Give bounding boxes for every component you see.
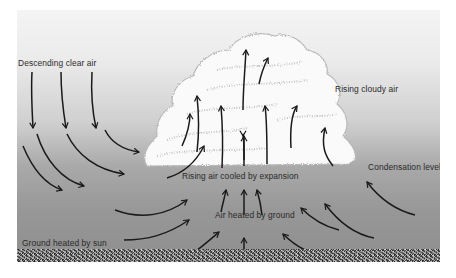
label-ground-heated-by-sun: Ground heated by sun — [22, 238, 107, 248]
label-condensation-level: Condensation level — [368, 162, 440, 172]
diagram-artwork — [17, 10, 440, 262]
descending-arrows — [32, 72, 96, 128]
label-rising-air-cooled: Rising air cooled by expansion — [182, 171, 299, 181]
label-descending-clear-air: Descending clear air — [18, 58, 96, 68]
label-air-heated-by-ground: Air heated by ground — [215, 210, 295, 220]
ground-strip — [17, 249, 440, 262]
diagram-panel: Descending clear air Rising cloudy air C… — [17, 10, 440, 262]
label-rising-cloudy-air: Rising cloudy air — [335, 84, 398, 94]
